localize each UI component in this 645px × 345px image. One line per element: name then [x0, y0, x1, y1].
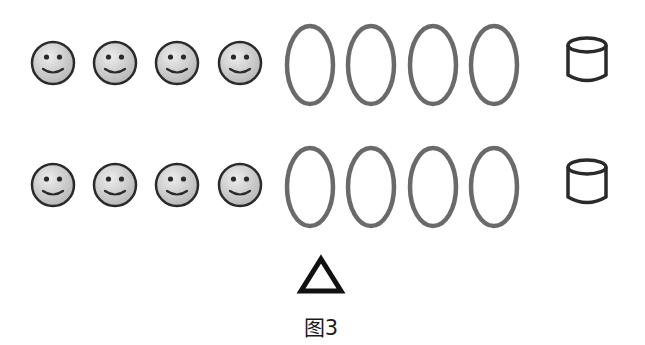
triangle-icon	[301, 259, 341, 291]
cylinder-icon	[568, 38, 606, 81]
smiley-face-icon	[94, 42, 136, 84]
smiley-face-icon	[94, 164, 136, 206]
oval-icon	[287, 26, 333, 104]
cylinder-icon	[568, 160, 606, 203]
figure-caption: 图3	[290, 311, 352, 341]
oval-icon	[471, 26, 517, 104]
oval-icon	[287, 148, 333, 226]
figure-canvas	[0, 0, 645, 345]
smiley-face-icon	[156, 164, 198, 206]
row-2	[32, 148, 606, 226]
row-1	[32, 26, 606, 104]
smiley-face-icon	[219, 164, 261, 206]
smiley-face-icon	[32, 42, 74, 84]
smiley-face-icon	[32, 164, 74, 206]
oval-icon	[410, 148, 456, 226]
smiley-face-icon	[156, 42, 198, 84]
oval-icon	[348, 148, 394, 226]
smiley-face-icon	[219, 42, 261, 84]
oval-icon	[410, 26, 456, 104]
oval-icon	[471, 148, 517, 226]
oval-icon	[348, 26, 394, 104]
